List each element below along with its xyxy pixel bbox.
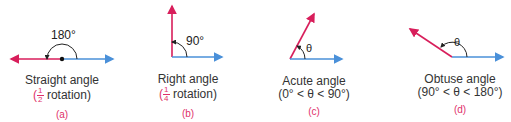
right-angle-figure [172, 6, 222, 57]
sublabel: (a) [22, 108, 102, 121]
terminal-side [410, 29, 452, 57]
caption-detail: (90° < θ < 180°) [410, 86, 510, 99]
caption-title: Straight angle [22, 74, 102, 87]
sublabel: (d) [410, 103, 510, 116]
caption-title: Right angle [148, 73, 228, 86]
sublabel: (b) [148, 107, 228, 120]
angle-label-a: 180° [51, 28, 76, 42]
caption-c: Acute angle (0° < θ < 90°) (c) [269, 75, 359, 118]
caption-b: Right angle (14 rotation) (b) [148, 73, 228, 120]
caption-d: Obtuse angle (90° < θ < 180°) (d) [410, 73, 510, 116]
angle-arc [47, 44, 77, 59]
angle-label-b: 90° [186, 34, 204, 48]
angle-label-d: θ [454, 36, 460, 48]
angle-arc [297, 46, 305, 59]
straight-angle-figure [11, 44, 113, 61]
caption-detail: (12 rotation) [22, 87, 102, 104]
acute-angle-figure [290, 14, 342, 59]
vertex-dot [60, 57, 64, 61]
angle-arc [172, 42, 187, 57]
angle-label-c: θ [306, 42, 312, 54]
caption-detail: (14 rotation) [148, 86, 228, 103]
caption-a: Straight angle (12 rotation) (a) [22, 74, 102, 121]
caption-detail: (0° < θ < 90°) [269, 88, 359, 101]
sublabel: (c) [269, 105, 359, 118]
